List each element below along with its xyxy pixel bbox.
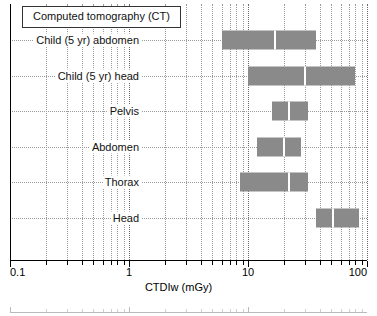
strip-tick bbox=[222, 309, 223, 312]
x-tick bbox=[305, 261, 306, 265]
x-tick bbox=[201, 261, 202, 265]
strip-tick bbox=[165, 309, 166, 312]
x-tick bbox=[165, 261, 166, 265]
category-label: Head bbox=[111, 211, 142, 224]
x-tick bbox=[331, 261, 332, 265]
strip-tick bbox=[117, 309, 118, 312]
strip-tick bbox=[243, 309, 244, 312]
x-tick bbox=[93, 261, 94, 265]
strip-tick bbox=[201, 309, 202, 312]
x-tick bbox=[46, 261, 47, 265]
x-tick-label: 10 bbox=[242, 266, 254, 279]
range-bar bbox=[257, 137, 301, 156]
x-tick bbox=[111, 261, 112, 265]
chart-title-box: Computed tomography (CT) bbox=[22, 6, 181, 28]
x-tick bbox=[103, 261, 104, 265]
strip-tick bbox=[82, 309, 83, 312]
strip-tick bbox=[111, 309, 112, 312]
range-bar bbox=[248, 66, 355, 85]
strip-tick bbox=[93, 309, 94, 312]
strip-tick bbox=[103, 309, 104, 312]
strip-tick bbox=[355, 309, 356, 312]
x-tick bbox=[367, 261, 368, 267]
x-tick bbox=[236, 261, 237, 265]
ct-dose-range-chart: 0.1110100 Child (5 yr) abdomenChild (5 y… bbox=[0, 0, 377, 316]
median-marker bbox=[288, 173, 290, 192]
gridline-vertical bbox=[165, 4, 166, 260]
gridline-vertical bbox=[367, 4, 368, 260]
median-marker bbox=[288, 102, 290, 121]
category-label: Child (5 yr) abdomen bbox=[34, 34, 142, 47]
strip-tick bbox=[320, 309, 321, 312]
x-tick bbox=[341, 261, 342, 265]
strip-tick bbox=[362, 309, 363, 312]
strip-tick bbox=[129, 307, 130, 312]
range-bar bbox=[240, 173, 309, 192]
x-tick bbox=[243, 261, 244, 265]
x-tick-label: 0.1 bbox=[10, 266, 25, 279]
x-tick-label: 100 bbox=[349, 266, 367, 279]
median-marker bbox=[332, 208, 334, 227]
category-labels: Child (5 yr) abdomenChild (5 yr) headPel… bbox=[0, 4, 142, 260]
x-tick bbox=[362, 261, 363, 265]
strip-tick bbox=[124, 309, 125, 312]
x-tick bbox=[124, 261, 125, 265]
category-label: Abdomen bbox=[90, 140, 142, 153]
range-bar bbox=[316, 208, 359, 227]
x-tick bbox=[355, 261, 356, 265]
strip-tick bbox=[349, 309, 350, 312]
x-tick bbox=[67, 261, 68, 265]
gridline-vertical bbox=[201, 4, 202, 260]
median-marker bbox=[274, 31, 276, 50]
gridline-vertical bbox=[212, 4, 213, 260]
strip-tick bbox=[331, 309, 332, 312]
range-bar bbox=[222, 31, 316, 50]
x-tick bbox=[212, 261, 213, 265]
x-tick bbox=[284, 261, 285, 265]
x-tick bbox=[222, 261, 223, 265]
category-label: Child (5 yr) head bbox=[56, 69, 142, 82]
category-label: Pelvis bbox=[108, 105, 142, 118]
x-tick bbox=[117, 261, 118, 265]
strip-tick bbox=[284, 309, 285, 312]
strip-tick bbox=[305, 309, 306, 312]
median-marker bbox=[304, 66, 306, 85]
x-tick bbox=[230, 261, 231, 265]
strip-tick bbox=[186, 309, 187, 312]
x-tick bbox=[320, 261, 321, 265]
x-axis-spine bbox=[10, 260, 367, 261]
gridline-vertical bbox=[362, 4, 363, 260]
x-tick bbox=[186, 261, 187, 265]
strip-tick bbox=[341, 309, 342, 312]
strip-tick bbox=[236, 309, 237, 312]
strip-tick bbox=[248, 307, 249, 312]
category-label: Thorax bbox=[103, 176, 142, 189]
x-tick-label: 1 bbox=[126, 266, 132, 279]
strip-line bbox=[10, 312, 367, 313]
strip-tick bbox=[67, 309, 68, 312]
median-marker bbox=[283, 137, 285, 156]
chart-title-text: Computed tomography (CT) bbox=[33, 10, 170, 22]
strip-tick bbox=[46, 309, 47, 312]
x-axis-title-text: CTDIw (mGy) bbox=[145, 281, 212, 293]
range-bar bbox=[272, 102, 308, 121]
x-tick bbox=[349, 261, 350, 265]
strip-tick bbox=[230, 309, 231, 312]
adjacent-figure-axis-strip bbox=[10, 305, 367, 313]
strip-tick bbox=[10, 307, 11, 312]
gridline-vertical bbox=[186, 4, 187, 260]
x-axis-title: CTDIw (mGy) bbox=[0, 281, 377, 294]
x-tick bbox=[82, 261, 83, 265]
strip-tick bbox=[212, 309, 213, 312]
